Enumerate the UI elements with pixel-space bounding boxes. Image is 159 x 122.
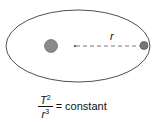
center-point xyxy=(74,45,76,47)
radius-label: r xyxy=(110,30,115,42)
fraction: T2 r3 xyxy=(38,92,53,119)
sun xyxy=(45,40,58,53)
kepler-formula: T2 r3 = constant xyxy=(38,92,107,119)
denominator: r3 xyxy=(42,107,50,119)
planet xyxy=(140,42,148,50)
formula-rhs: = constant xyxy=(56,100,107,112)
numerator: T2 xyxy=(38,92,53,107)
